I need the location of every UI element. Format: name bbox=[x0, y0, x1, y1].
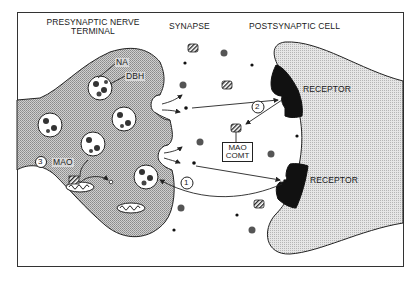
postsynaptic-title: POSTSYNAPTIC CELL bbox=[249, 22, 340, 31]
mao-comt-box-line2: COMT bbox=[225, 152, 250, 160]
receptor-bottom-label: RECEPTOR bbox=[310, 176, 358, 185]
step-1-number: 1 bbox=[184, 178, 189, 187]
step-3-number: 3 bbox=[38, 157, 43, 166]
mao-comt-box: MAO COMT bbox=[222, 142, 253, 162]
synapse-diagram bbox=[0, 0, 419, 282]
step-2-number: 2 bbox=[255, 102, 260, 111]
presynaptic-title: PRESYNAPTIC NERVE TERMINAL bbox=[38, 18, 148, 36]
synapse-title: SYNAPSE bbox=[169, 22, 210, 31]
presynaptic-title-line2: TERMINAL bbox=[38, 27, 148, 36]
receptor-top-label: RECEPTOR bbox=[303, 85, 351, 94]
dbh-label: DBH bbox=[125, 72, 145, 81]
na-label: NA bbox=[115, 58, 129, 67]
mao-label: MAO bbox=[52, 158, 74, 167]
